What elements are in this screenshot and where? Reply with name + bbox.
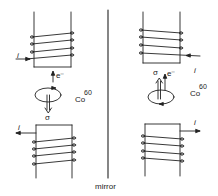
left-spin-label: σ (45, 114, 50, 122)
left-top-current-label: i (17, 52, 19, 60)
right-co60-nucleus (148, 74, 174, 105)
left-bottom-current-label: i (18, 124, 20, 132)
mirror-label: mirror (95, 183, 116, 191)
right-top-coil (139, 12, 200, 63)
right-bottom-current-label: i (194, 119, 196, 127)
wu-experiment-diagram (0, 0, 218, 196)
right-nucleus-label: Co (190, 90, 200, 98)
left-nucleus-label: Co (75, 96, 85, 104)
right-electron-label: e⁻ (167, 70, 175, 78)
left-bottom-coil (16, 125, 76, 178)
right-bottom-coil (141, 124, 200, 176)
left-electron-label: e⁻ (56, 72, 64, 80)
right-nucleus-mass-number: 60 (199, 83, 207, 90)
left-nucleus-mass-number: 60 (84, 89, 92, 96)
right-spin-label: σ (153, 69, 158, 77)
left-top-coil (16, 12, 74, 67)
right-top-current-label: i (194, 67, 196, 75)
